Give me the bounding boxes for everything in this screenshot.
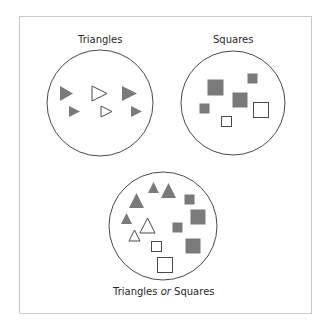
union-set-label: Triangles or Squares — [113, 286, 215, 298]
filled-triangle-icon — [122, 86, 137, 101]
union-label-connective: or — [161, 286, 171, 297]
filled-triangle-icon — [121, 213, 132, 224]
filled-triangle-icon — [161, 183, 176, 198]
outline-square-icon — [222, 117, 232, 127]
squares-set-label: Squares — [213, 34, 253, 46]
outline-square-icon — [254, 103, 269, 118]
venn-diagram — [0, 0, 328, 328]
filled-square-icon — [185, 195, 195, 205]
filled-square-icon — [191, 210, 206, 225]
filled-triangle-icon — [148, 182, 159, 193]
outline-triangle-icon — [140, 218, 155, 233]
outline-square-icon — [158, 258, 173, 273]
filled-square-icon — [173, 223, 183, 233]
filled-triangle-icon — [60, 86, 73, 101]
filled-triangle-icon — [69, 106, 80, 117]
outline-triangle-icon — [101, 106, 112, 117]
triangles-set-label: Triangles — [78, 34, 122, 46]
filled-square-icon — [208, 80, 224, 96]
filled-triangle-icon — [131, 106, 142, 117]
filled-square-icon — [248, 74, 258, 84]
squares-set — [181, 51, 285, 155]
triangles-set — [47, 50, 153, 156]
union-label-part-1: Triangles — [113, 286, 161, 297]
filled-triangle-icon — [129, 193, 144, 208]
triangles-circle — [47, 50, 153, 156]
filled-square-icon — [186, 239, 201, 254]
outline-square-icon — [152, 242, 162, 252]
union-set — [109, 172, 217, 280]
union-label-part-2: Squares — [171, 286, 215, 297]
outline-triangle-icon — [92, 86, 107, 101]
outline-triangle-icon — [129, 230, 140, 241]
filled-square-icon — [200, 104, 210, 114]
filled-square-icon — [233, 93, 248, 108]
